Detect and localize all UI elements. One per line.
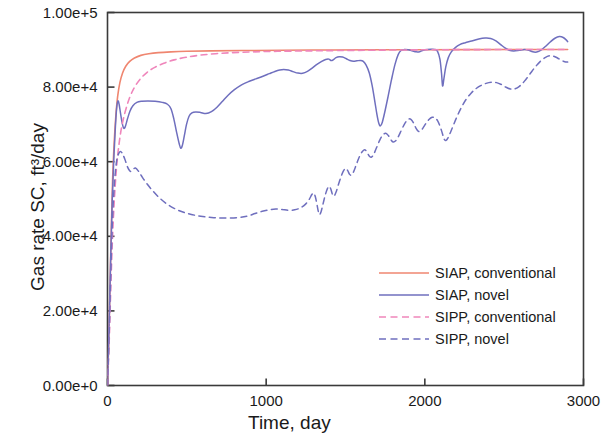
y-axis-label: Gas rate SC, ft³/day xyxy=(27,87,49,327)
legend-item: SIPP, novel xyxy=(378,328,578,350)
y-tick-label: 1.00e+5 xyxy=(22,4,98,21)
x-tick-label: 0 xyxy=(78,392,138,409)
y-tick-label: 8.00e+4 xyxy=(22,78,98,95)
legend-line-swatch xyxy=(378,333,430,345)
plot-canvas xyxy=(0,0,616,441)
legend-item: SIPP, conventional xyxy=(378,306,578,328)
y-tick-label: 4.00e+4 xyxy=(22,227,98,244)
legend-item: SIAP, novel xyxy=(378,284,578,306)
x-tick-label: 2000 xyxy=(395,392,455,409)
legend-line-swatch xyxy=(378,267,430,279)
x-tick-label: 1000 xyxy=(236,392,296,409)
x-axis-label: Time, day xyxy=(248,412,331,434)
legend-line-swatch xyxy=(378,289,430,301)
y-tick-label: 6.00e+4 xyxy=(22,153,98,170)
x-tick-label: 3000 xyxy=(554,392,614,409)
legend-label: SIAP, conventional xyxy=(435,265,556,281)
legend-line-swatch xyxy=(378,311,430,323)
legend-item: SIAP, conventional xyxy=(378,262,578,284)
legend-label: SIPP, conventional xyxy=(435,309,556,325)
gas-rate-chart-figure: Gas rate SC, ft³/day Time, day 0.00e+02.… xyxy=(0,0,616,441)
legend-label: SIPP, novel xyxy=(435,331,509,347)
y-tick-label: 2.00e+4 xyxy=(22,302,98,319)
chart-legend: SIAP, conventionalSIAP, novelSIPP, conve… xyxy=(378,262,578,350)
legend-label: SIAP, novel xyxy=(435,287,509,303)
